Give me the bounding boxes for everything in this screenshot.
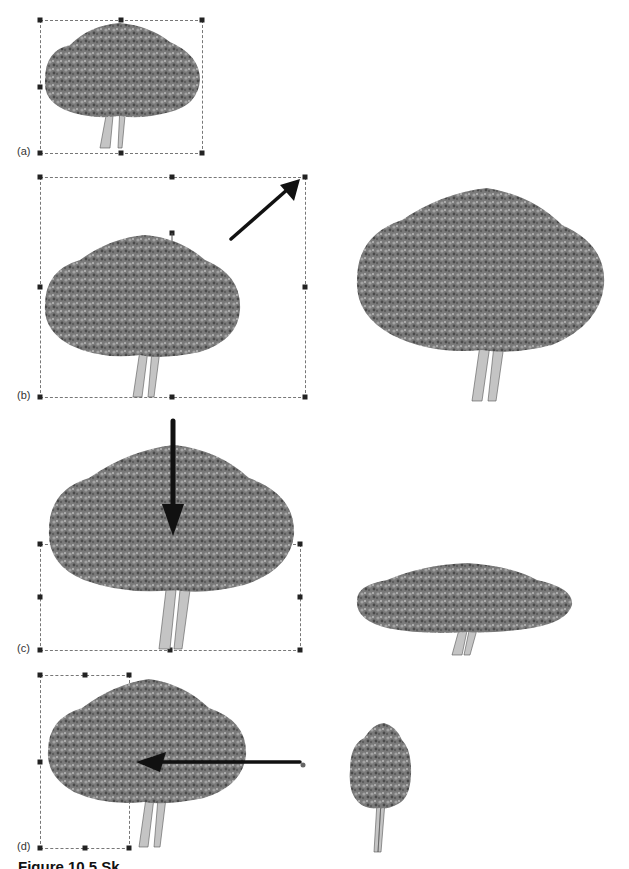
tree-image[interactable] — [40, 20, 203, 154]
drag-handle-point[interactable] — [301, 763, 306, 768]
resize-handle-left[interactable] — [38, 760, 43, 765]
resize-handle-top-left[interactable] — [38, 175, 43, 180]
panel-label-b: (b) — [17, 389, 30, 401]
resize-handle-bottom-right[interactable] — [303, 395, 308, 400]
resize-handle-top-left[interactable] — [38, 542, 43, 547]
panel-label-c: (c) — [17, 642, 30, 654]
resize-handle-bottom-left[interactable] — [38, 846, 43, 851]
panel-label-d: (d) — [17, 840, 30, 852]
squashed-tree-result — [352, 560, 577, 656]
drag-arrow-icon — [132, 750, 308, 774]
panel-label-a: (a) — [17, 145, 30, 157]
resize-handle-left[interactable] — [38, 595, 43, 600]
narrowed-tree-result — [346, 720, 414, 854]
resize-handle-right[interactable] — [303, 285, 308, 290]
figure-caption: Figure 10.5 Sk — [18, 858, 120, 869]
drag-arrow-icon — [160, 418, 190, 540]
resize-handle-top[interactable] — [170, 175, 175, 180]
tree-image[interactable] — [40, 230, 245, 398]
scaled-tree-result — [352, 185, 610, 403]
drag-arrow-icon — [228, 175, 308, 245]
resize-handle-bottom-left[interactable] — [38, 648, 43, 653]
resize-handle-top-left[interactable] — [38, 673, 43, 678]
